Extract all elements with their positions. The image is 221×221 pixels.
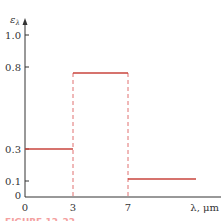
x-tick-label-7: 7 [125,202,131,213]
x-tick-label-0: 0 [22,202,28,213]
emissivity-step-chart: ελ 1.0 0.8 0.3 0.1 0 0 3 7 λ, μm FIGURE … [0,0,221,221]
y-tick-label-0.8: 0.8 [5,62,21,73]
y-tick-label-1.0: 1.0 [5,30,21,41]
x-axis-label: λ, μm [190,202,219,213]
x-tick-label-3: 3 [70,202,76,213]
y-tick-label-0: 0 [15,190,21,201]
y-tick-label-0.1: 0.1 [5,176,21,187]
figure-caption: FIGURE 12–22 [5,217,75,221]
y-axis-label: ελ [10,14,20,27]
y-axis-arrow-icon [23,18,28,25]
y-tick-label-0.3: 0.3 [5,144,21,155]
